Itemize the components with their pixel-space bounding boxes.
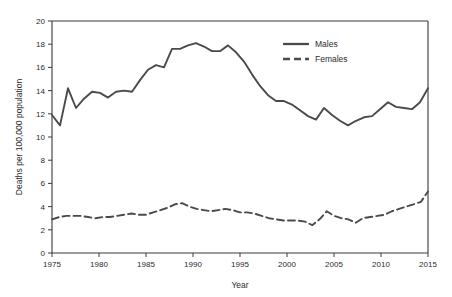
x-tick-label: 1985 — [137, 260, 155, 269]
x-tick-label: 1995 — [231, 260, 249, 269]
y-tick-label: 16 — [36, 63, 45, 72]
y-tick-label: 0 — [41, 249, 46, 258]
y-tick-label: 12 — [36, 110, 45, 119]
y-tick-label: 6 — [41, 179, 46, 188]
x-axis-title: Year — [231, 280, 248, 290]
y-tick-label: 4 — [41, 203, 46, 212]
legend-label-females: Females — [315, 54, 348, 64]
x-tick-label: 2015 — [419, 260, 437, 269]
line-chart: 02468101214161820 1975198019851990199520… — [0, 0, 452, 297]
x-tick-label: 1975 — [43, 260, 61, 269]
x-tick-label: 2010 — [372, 260, 390, 269]
x-tick-label: 1980 — [90, 260, 108, 269]
y-tick-label: 2 — [41, 226, 46, 235]
y-axis-title: Deaths per 100,000 population — [14, 79, 24, 196]
y-tick-label: 10 — [36, 133, 45, 142]
x-tick-label: 2005 — [325, 260, 343, 269]
chart-container: 02468101214161820 1975198019851990199520… — [0, 0, 452, 297]
y-tick-label: 18 — [36, 40, 45, 49]
y-tick-label: 20 — [36, 17, 45, 26]
legend-label-males: Males — [315, 39, 338, 49]
y-tick-label: 14 — [36, 87, 45, 96]
x-tick-label: 1990 — [184, 260, 202, 269]
x-tick-label: 2000 — [278, 260, 296, 269]
y-tick-label: 8 — [41, 156, 46, 165]
